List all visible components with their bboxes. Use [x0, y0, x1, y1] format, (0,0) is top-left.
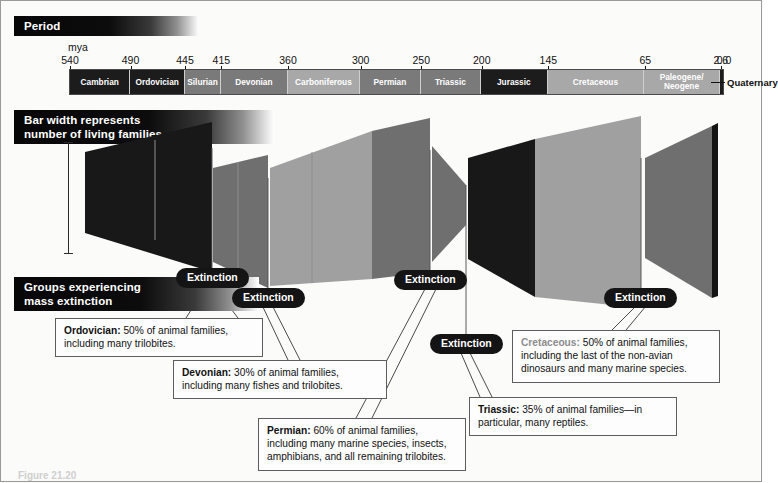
band-carboniferous	[270, 131, 372, 286]
callout-devonian: Devonian: 30% of animal families, includ…	[173, 360, 387, 399]
extinction-pill-triassic[interactable]: Extinction	[430, 334, 503, 354]
callout-cretaceous-title: Cretaceous:	[521, 337, 580, 348]
figure-caption: Figure 21.20	[18, 470, 76, 481]
band-permian	[372, 118, 430, 279]
extinction-pill-ordovician[interactable]: Extinction	[176, 268, 249, 288]
callout-cretaceous: Cretaceous: 50% of animal families, incl…	[512, 330, 720, 383]
band-jurassic	[468, 139, 535, 297]
extinction-pill-permian[interactable]: Extinction	[394, 270, 467, 290]
callout-permian: Permian: 60% of animal families, includi…	[258, 418, 466, 471]
band-quaternary-edge	[712, 123, 718, 298]
figure-caption-text: Figure 21.20	[18, 470, 76, 481]
groups-banner-line2: mass extinction	[24, 295, 112, 307]
band-triassic	[432, 146, 466, 262]
callout-triassic: Triassic: 35% of animal families—in part…	[469, 397, 677, 436]
callout-ordovician: Ordovician: 50% of animal families, incl…	[55, 318, 263, 357]
band-cretaceous	[535, 116, 641, 308]
band-paleogene-neogene	[645, 126, 712, 298]
callout-triassic-title: Triassic:	[478, 404, 519, 415]
extinction-pill-devonian[interactable]: Extinction	[232, 288, 305, 308]
groups-banner-line1: Groups experiencing	[24, 281, 141, 293]
callout-devonian-title: Devonian:	[182, 367, 231, 378]
extinction-pill-cretaceous[interactable]: Extinction	[604, 288, 677, 308]
callout-permian-title: Permian:	[267, 425, 311, 436]
band-cambrian-ordovician	[85, 122, 212, 272]
callout-ordovician-title: Ordovician:	[64, 325, 121, 336]
